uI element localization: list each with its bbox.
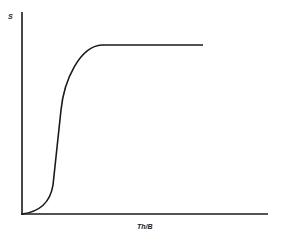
y-axis-label: S xyxy=(8,13,13,20)
x-axis-label: Th/B xyxy=(137,223,153,230)
data-curve xyxy=(22,45,203,214)
chart-canvas xyxy=(0,0,281,239)
